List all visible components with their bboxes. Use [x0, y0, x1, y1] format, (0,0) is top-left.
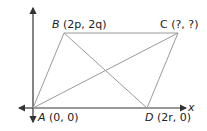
vertex-label-a: A (0, 0): [37, 111, 79, 124]
diagonal-bd: [64, 33, 147, 108]
edge-cd: [147, 33, 178, 108]
diagonals: [33, 33, 178, 108]
vertex-label-c: C (?, ?): [160, 18, 198, 31]
edge-ab: [33, 33, 64, 108]
vertex-label-b: B (2p, 2q): [52, 18, 107, 31]
vertex-label-d: D (2r, 0): [145, 111, 191, 124]
coordinate-diagram: x B (2p, 2q) C (?, ?) A (0, 0) D (2r, 0): [0, 0, 207, 131]
